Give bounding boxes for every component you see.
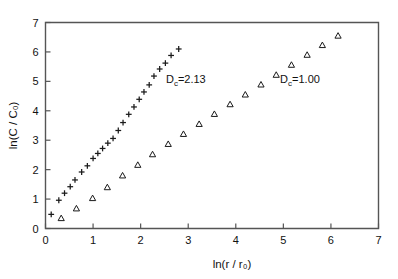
x-tick-label: 3 — [185, 234, 191, 246]
y-tick-label: 5 — [32, 75, 38, 87]
y-tick-label: 3 — [32, 134, 38, 146]
annotation-d-symbol: D — [280, 73, 288, 85]
y-tick-label: 1 — [32, 193, 38, 205]
annotation-d-symbol: D — [166, 73, 174, 85]
x-tick-label: 1 — [90, 234, 96, 246]
y-axis-title: ln(C / C₀) — [7, 102, 19, 150]
y-tick-label: 2 — [32, 164, 38, 176]
y-tick-label: 4 — [32, 105, 38, 117]
x-axis-title: ln(r / r₀) — [213, 258, 252, 270]
y-tick-label: 6 — [32, 46, 38, 58]
x-tick-label: 0 — [42, 234, 48, 246]
annotation-value: =2.13 — [178, 73, 206, 85]
x-tick-label: 6 — [328, 234, 334, 246]
x-tick-label: 7 — [375, 234, 381, 246]
y-tick-label: 0 — [32, 223, 38, 235]
figure-container: 01234567 01234567 Dc=2.13Dc=1.00 ln(r / … — [0, 0, 398, 279]
x-tick-label: 4 — [233, 234, 239, 246]
scatter-plot: 01234567 01234567 Dc=2.13Dc=1.00 ln(r / … — [0, 0, 398, 279]
annotation-value: =1.00 — [292, 73, 320, 85]
x-tick-label: 2 — [138, 234, 144, 246]
y-tick-label: 7 — [32, 17, 38, 29]
x-tick-label: 5 — [280, 234, 286, 246]
plot-background — [0, 0, 398, 279]
